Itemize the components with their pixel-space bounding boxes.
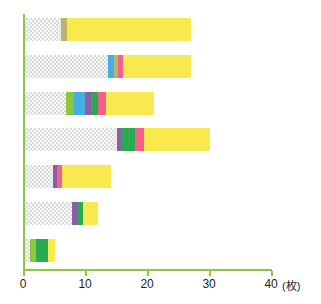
x-tick-40 [271,271,273,276]
x-tick-30 [209,271,211,276]
bar-row [24,202,98,225]
bar-row [24,55,191,78]
x-tick-label-20: 20 [141,277,154,291]
bar-segment-yellow [67,18,192,41]
x-tick-label-0: 0 [20,277,26,291]
x-tick-label-10: 10 [79,277,92,291]
bar-segment-pink [135,128,144,151]
bar-segment-green [36,239,48,262]
bar-segment-gray [24,165,53,188]
bar-segment-gray [24,92,66,115]
bar-segment-yellow [106,92,154,115]
x-tick-label-40: 40 [265,277,278,291]
bar-segment-gray [24,128,117,151]
bar-segment-gray [24,18,61,41]
x-tick-0 [23,271,25,276]
bar-row [24,165,111,188]
bar-row [24,128,210,151]
bar-segment-green [91,92,98,115]
bar-segment-yellow [83,202,99,225]
bar-row [24,92,154,115]
bar-segment-gray [24,55,108,78]
bar-row [24,18,191,41]
bar-segment-pink [98,92,106,115]
x-tick-10 [85,271,87,276]
bar-row [24,239,55,262]
x-tick-20 [147,271,149,276]
bar-segment-blue [74,92,85,115]
x-tick-label-30: 30 [203,277,216,291]
bar-segment-yellow [123,55,191,78]
bar-segment-light-green [66,92,73,115]
bar-segment-light-green [30,239,37,262]
bar-chart: 010203040 (枚) [0,0,321,304]
x-axis-unit-label: (枚) [282,277,300,293]
y-axis-line [23,14,25,271]
bar-segment-gray [24,202,72,225]
bar-segment-yellow [48,239,55,262]
bar-segment-yellow [144,128,210,151]
bar-segment-yellow [62,165,110,188]
plot-area [24,14,271,268]
bar-segment-green [121,128,135,151]
